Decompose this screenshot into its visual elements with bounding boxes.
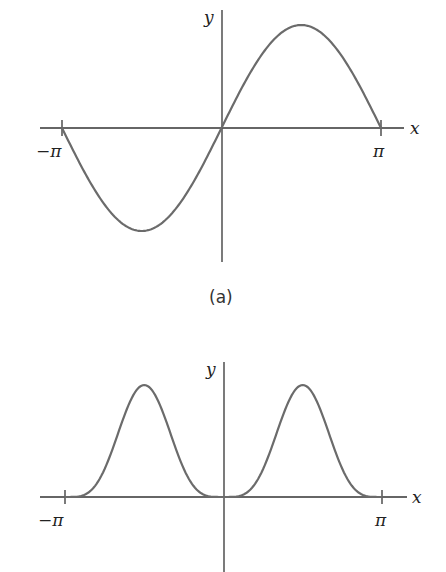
- panel-caption-a: (a): [209, 287, 233, 307]
- panel-b: x y −π π: [38, 359, 422, 572]
- tick-label-neg-pi-b: −π: [38, 510, 64, 530]
- figure: x y −π π (a) x y −π π: [0, 0, 446, 572]
- x-axis-label-a: x: [410, 118, 420, 138]
- panel-a: x y −π π (a): [36, 7, 420, 307]
- x-axis-label-b: x: [412, 487, 422, 507]
- tick-label-pi-a: π: [372, 141, 385, 161]
- y-axis-label-b: y: [205, 359, 216, 379]
- tick-label-pi-b: π: [374, 510, 387, 530]
- tick-label-neg-pi-a: −π: [36, 141, 62, 161]
- y-axis-label-a: y: [203, 7, 214, 27]
